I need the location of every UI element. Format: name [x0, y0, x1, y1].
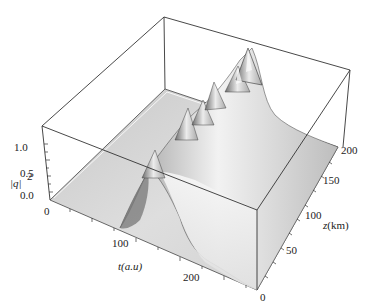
zkm-axis-label: z(km) — [322, 219, 349, 232]
zkm-tick-100: 100 — [305, 209, 322, 221]
z-tick-0.0: 0.0 — [20, 189, 34, 201]
intensity-axis-label: |q| — [10, 177, 22, 189]
t-axis-unit: (a.u) — [121, 260, 142, 273]
zkm-tick-50: 50 — [286, 244, 298, 256]
zkm-tick-150: 150 — [323, 174, 340, 186]
zkm-axis-unit: (km) — [327, 219, 349, 232]
zkm-tick-200: 200 — [341, 144, 358, 156]
t-tick-0: 0 — [44, 205, 50, 217]
surface-plot: 1.0 0.5 0.0 |q| 2 0 100 200 t(a.u) 0 50 … — [0, 0, 370, 305]
z-tick-1.0: 1.0 — [14, 141, 28, 153]
t-tick-200: 200 — [183, 271, 200, 283]
t-axis-label: t(a.u) — [118, 260, 142, 273]
t-tick-100: 100 — [112, 237, 129, 249]
intensity-axis-superscript: 2 — [27, 170, 33, 182]
zkm-tick-0: 0 — [260, 291, 266, 303]
